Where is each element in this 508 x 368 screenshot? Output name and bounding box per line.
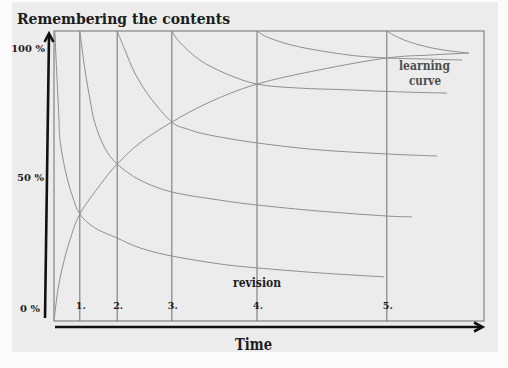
revision-2-label: 2. (113, 300, 123, 311)
y-tick-label-50: 50 % (17, 172, 44, 183)
learning-curve-annotation-line1: learning (399, 59, 451, 73)
y-tick-label-100: 100 % (11, 43, 45, 54)
revision-1-label: 1. (76, 300, 86, 311)
learning-curve-annotation-line2: curve (409, 74, 441, 88)
revision-4-label: 4. (253, 300, 263, 311)
memory-chart: Remembering the contents 100 % 50 % 0 % … (0, 0, 508, 368)
revision-annotation: revision (233, 276, 281, 290)
chart-title: Remembering the contents (17, 10, 230, 28)
x-axis-label: Time (235, 335, 272, 354)
revision-5-label: 5. (383, 300, 393, 311)
revision-3-label: 3. (168, 300, 178, 311)
y-tick-label-0: 0 % (20, 303, 40, 314)
